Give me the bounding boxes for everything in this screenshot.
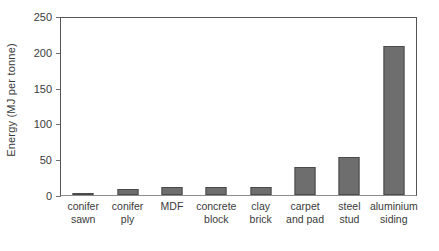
bar-slot: [239, 18, 283, 195]
y-axis-tick-labels: 050100150200250: [22, 17, 56, 196]
y-tick-label: 50: [40, 155, 52, 166]
y-tick-label: 0: [46, 191, 52, 202]
bar-slot: [61, 18, 105, 195]
x-tick-label: aluminiumsiding: [366, 200, 422, 226]
x-tick-label-line2: ply: [99, 213, 155, 226]
bar[interactable]: [250, 187, 271, 195]
bar-slot: [283, 18, 327, 195]
bar-chart: Energy (MJ per tonne) 050100150200250 co…: [0, 0, 439, 251]
bars-layer: [61, 18, 416, 195]
y-tick-mark: [56, 196, 61, 197]
plot-area: [60, 17, 417, 196]
x-tick-label-line2: siding: [366, 213, 422, 226]
y-axis-title-text: Energy (MJ per tonne): [5, 43, 17, 157]
bar[interactable]: [206, 187, 227, 195]
bar-slot: [150, 18, 194, 195]
bar[interactable]: [73, 193, 94, 195]
x-tick-label-line1: aluminium: [366, 200, 422, 213]
y-tick-label: 200: [34, 47, 52, 58]
bar-slot: [105, 18, 149, 195]
bar[interactable]: [295, 167, 316, 195]
bar[interactable]: [383, 46, 404, 195]
bar[interactable]: [339, 157, 360, 195]
x-axis-tick-labels: conifersawnconiferplyMDFconcreteblockcla…: [61, 200, 416, 248]
bar-slot: [372, 18, 416, 195]
y-tick-label: 150: [34, 83, 52, 94]
bar[interactable]: [117, 189, 138, 195]
y-tick-label: 250: [34, 12, 52, 23]
bar-slot: [327, 18, 371, 195]
y-tick-label: 100: [34, 119, 52, 130]
bar[interactable]: [161, 187, 182, 195]
bar-slot: [194, 18, 238, 195]
y-axis-title: Energy (MJ per tonne): [0, 0, 22, 200]
